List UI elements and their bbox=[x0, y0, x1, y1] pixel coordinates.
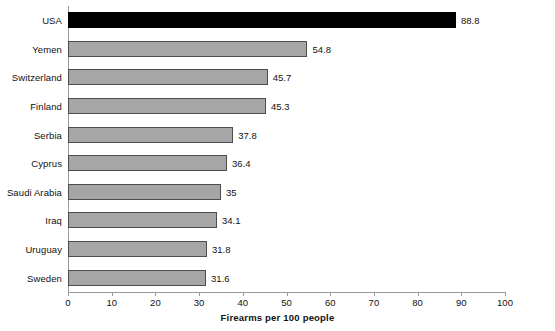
bar-chart: USA88.8Yemen54.8Switzerland45.7Finland45… bbox=[0, 0, 555, 331]
x-tick bbox=[199, 292, 200, 296]
bar-value-label: 34.1 bbox=[222, 215, 241, 226]
x-tick bbox=[155, 292, 156, 296]
bar bbox=[68, 69, 268, 85]
x-tick-label: 60 bbox=[325, 297, 336, 308]
category-label: Serbia bbox=[34, 129, 62, 140]
chart-row: Saudi Arabia35 bbox=[68, 178, 505, 207]
x-tick bbox=[243, 292, 244, 296]
x-tick bbox=[112, 292, 113, 296]
chart-row: Uruguay31.8 bbox=[68, 235, 505, 264]
bar bbox=[68, 184, 221, 200]
bar bbox=[68, 155, 227, 171]
x-tick bbox=[374, 292, 375, 296]
category-label: Sweden bbox=[27, 272, 62, 283]
bar bbox=[68, 12, 456, 28]
category-label: Cyprus bbox=[31, 158, 62, 169]
chart-row: Yemen54.8 bbox=[68, 35, 505, 64]
plot-area: USA88.8Yemen54.8Switzerland45.7Finland45… bbox=[68, 6, 505, 292]
bar bbox=[68, 270, 206, 286]
bar-value-label: 31.6 bbox=[211, 272, 230, 283]
chart-row: Finland45.3 bbox=[68, 92, 505, 121]
category-label: USA bbox=[42, 15, 62, 26]
bar bbox=[68, 241, 207, 257]
x-tick-label: 100 bbox=[497, 297, 513, 308]
x-tick bbox=[287, 292, 288, 296]
bar-value-label: 36.4 bbox=[232, 158, 251, 169]
category-label: Saudi Arabia bbox=[7, 186, 62, 197]
chart-row: Sweden31.6 bbox=[68, 263, 505, 292]
chart-row: USA88.8 bbox=[68, 6, 505, 35]
x-tick bbox=[461, 292, 462, 296]
chart-row: Cyprus36.4 bbox=[68, 149, 505, 178]
bar bbox=[68, 212, 217, 228]
bar bbox=[68, 98, 266, 114]
x-axis-title: Firearms per 100 people bbox=[0, 312, 555, 323]
category-label: Switzerland bbox=[12, 72, 62, 83]
x-tick-label: 10 bbox=[106, 297, 117, 308]
bar bbox=[68, 127, 233, 143]
bar-value-label: 45.7 bbox=[273, 72, 292, 83]
x-tick-label: 0 bbox=[65, 297, 70, 308]
bar-value-label: 88.8 bbox=[461, 15, 480, 26]
category-label: Uruguay bbox=[25, 244, 62, 255]
x-tick-label: 70 bbox=[369, 297, 380, 308]
category-label: Yemen bbox=[32, 43, 62, 54]
x-tick bbox=[505, 292, 506, 296]
chart-row: Iraq34.1 bbox=[68, 206, 505, 235]
chart-row: Switzerland45.7 bbox=[68, 63, 505, 92]
x-tick-label: 20 bbox=[150, 297, 161, 308]
x-tick-label: 40 bbox=[238, 297, 249, 308]
bar-value-label: 54.8 bbox=[312, 43, 331, 54]
chart-row: Serbia37.8 bbox=[68, 120, 505, 149]
category-label: Finland bbox=[30, 101, 62, 112]
x-tick-label: 90 bbox=[456, 297, 467, 308]
bar bbox=[68, 41, 307, 57]
category-label: Iraq bbox=[45, 215, 62, 226]
x-tick bbox=[68, 292, 69, 296]
bar-value-label: 35 bbox=[226, 186, 237, 197]
bar-value-label: 45.3 bbox=[271, 101, 290, 112]
x-tick bbox=[418, 292, 419, 296]
x-tick bbox=[330, 292, 331, 296]
bar-value-label: 31.8 bbox=[212, 244, 231, 255]
bar-value-label: 37.8 bbox=[238, 129, 257, 140]
x-tick-label: 80 bbox=[412, 297, 423, 308]
x-tick-label: 30 bbox=[194, 297, 205, 308]
x-tick-label: 50 bbox=[281, 297, 292, 308]
